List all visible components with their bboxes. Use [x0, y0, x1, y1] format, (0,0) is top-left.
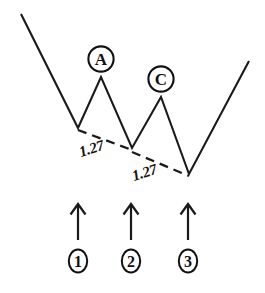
peak-c-label: C — [155, 70, 167, 89]
step-2-label: 2 — [127, 253, 135, 270]
peak-marker-a: A — [88, 46, 113, 71]
up-arrow-icon-2 — [124, 204, 139, 240]
step-1-label: 1 — [74, 253, 82, 270]
price-path-line — [21, 14, 249, 174]
peak-a-label: A — [95, 50, 108, 69]
step-indicator-3: 3 — [179, 204, 197, 273]
step-indicator-1: 1 — [69, 204, 87, 273]
ratio-label-2: 1.27 — [130, 161, 160, 184]
ratio-label-1: 1.27 — [77, 137, 107, 160]
peak-marker-c: C — [148, 66, 173, 91]
diagram-canvas: A C 1.27 1.27 1 2 3 — [0, 0, 265, 293]
step-indicator-2: 2 — [122, 204, 140, 273]
up-arrow-icon-3 — [181, 204, 196, 240]
up-arrow-icon-1 — [71, 204, 86, 240]
pattern-diagram: A C 1.27 1.27 1 2 3 — [0, 0, 265, 293]
step-3-label: 3 — [184, 253, 192, 270]
